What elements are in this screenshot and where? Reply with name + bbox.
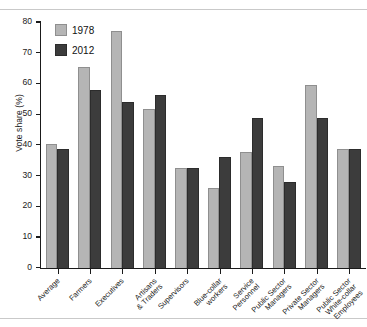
bar-group [203,22,235,268]
x-tick-mark [187,269,188,274]
y-tick-label: 60 [4,77,32,87]
bar-group [138,22,170,268]
legend-label-1978: 1978 [72,25,94,36]
y-tick-label: 50 [4,108,32,118]
bar-1978 [78,67,90,268]
y-tick-label: 70 [4,47,32,57]
y-tick-label: 80 [4,16,32,26]
bar-chart: Vote share (%) 01020304050607080 Average… [0,0,367,327]
bar-1978 [337,149,349,268]
y-tick-label: 10 [4,231,32,241]
x-tick-mark [284,269,285,274]
x-tick-mark [317,269,318,274]
y-tick-mark [36,175,41,176]
x-tick-mark [90,269,91,274]
x-tick-mark [220,269,221,274]
bar-2012 [317,118,329,268]
bar-1978 [143,109,155,268]
legend-item-1978: 1978 [55,22,94,38]
y-tick-mark [36,114,41,115]
y-tick-label: 40 [4,139,32,149]
y-tick-label: 0 [4,262,32,272]
legend-label-2012: 2012 [72,45,94,56]
bar-2012 [155,95,167,268]
bar-2012 [349,149,361,268]
y-tick-label: 20 [4,200,32,210]
y-tick-label: 30 [4,170,32,180]
bar-2012 [57,149,69,268]
y-tick-mark [36,144,41,145]
y-tick-mark [36,83,41,84]
y-tick-mark [36,52,41,53]
bar-1978 [175,168,187,268]
bar-group [333,22,365,268]
bar-group [106,22,138,268]
legend: 1978 2012 [55,22,94,62]
y-tick-mark [36,236,41,237]
bar-group [268,22,300,268]
legend-item-2012: 2012 [55,42,94,58]
bar-1978 [273,166,285,267]
bar-group [171,22,203,268]
y-tick-mark [36,206,41,207]
bar-2012 [252,118,264,268]
bar-1978 [305,85,317,268]
y-tick-mark [36,267,41,268]
bar-2012 [187,168,199,268]
x-tick-mark [155,269,156,274]
legend-swatch-2012 [55,44,67,56]
x-tick-mark [349,269,350,274]
y-tick-mark [36,21,41,22]
bar-1978 [111,31,123,268]
bar-1978 [240,152,252,268]
bar-1978 [208,188,220,268]
bar-2012 [122,102,134,268]
bar-group [300,22,332,268]
bar-2012 [219,157,231,268]
bar-2012 [90,90,102,268]
x-tick-mark [58,269,59,274]
bar-2012 [284,182,296,268]
legend-swatch-1978 [55,24,67,36]
bar-group [236,22,268,268]
bar-1978 [46,144,58,268]
x-tick-mark [252,269,253,274]
x-tick-mark [122,269,123,274]
